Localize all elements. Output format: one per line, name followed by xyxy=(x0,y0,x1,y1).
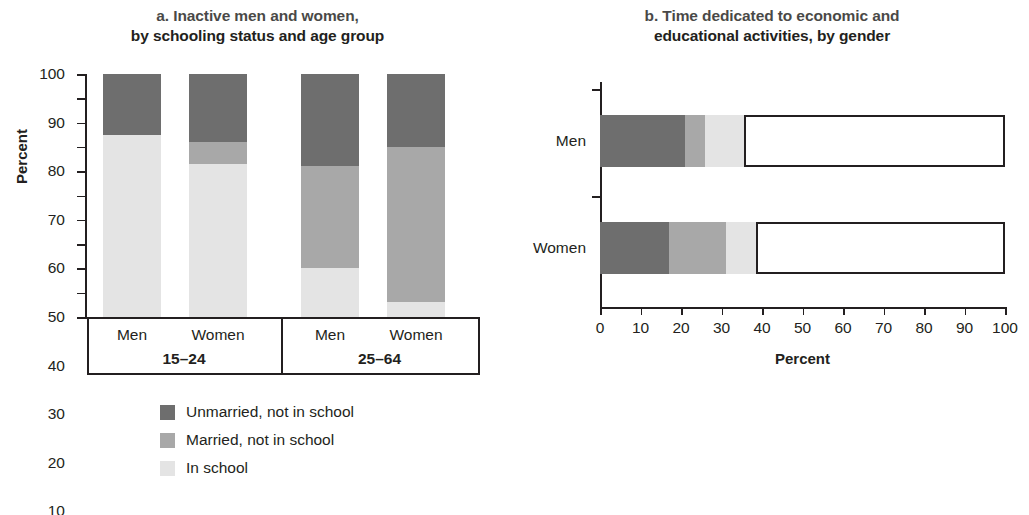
y-tick-mark: 10 xyxy=(77,293,85,295)
y-tick-mark: 50 xyxy=(77,196,85,198)
x-tick-mark xyxy=(884,307,886,315)
x-axis-category-label: Women xyxy=(371,326,461,344)
panel-a-title-line2: by schooling status and age group xyxy=(0,26,515,46)
y-tick-label: 60 xyxy=(48,261,65,277)
x-tick-mark xyxy=(924,307,926,315)
y-tick-mark: 0 xyxy=(77,317,85,319)
legend-swatch-icon xyxy=(160,405,175,420)
legend-swatch-icon xyxy=(160,433,175,448)
y-tick-mark: 100 xyxy=(77,74,85,76)
y-tick-label: 20 xyxy=(48,455,65,471)
column-segment xyxy=(103,135,161,317)
bar-segment xyxy=(705,115,743,167)
y-tick-mark xyxy=(592,196,600,198)
bar-category-label: Men xyxy=(556,132,586,150)
x-tick-label: 30 xyxy=(713,320,730,336)
x-tick-mark xyxy=(681,307,683,315)
x-tick-label: 70 xyxy=(875,320,892,336)
column-segment xyxy=(103,74,161,135)
column-segment xyxy=(387,74,445,147)
bar-segment xyxy=(744,115,1005,167)
x-tick-mark xyxy=(762,307,764,315)
bar-segment xyxy=(756,222,1005,274)
x-tick-label: 50 xyxy=(794,320,811,336)
x-tick-mark xyxy=(722,307,724,315)
panel-a-y-axis-label: Percent xyxy=(13,129,30,184)
column-segment xyxy=(387,147,445,303)
bar-segment xyxy=(685,115,705,167)
bar-category-label: Women xyxy=(533,239,586,257)
legend-item-label: Married, not in school xyxy=(186,432,334,448)
x-tick-label: 0 xyxy=(596,320,605,336)
x-axis-category-label: Men xyxy=(87,326,177,344)
panel-a-legend-item: In school xyxy=(160,454,354,482)
y-tick-label: 50 xyxy=(48,309,65,325)
panel-a-title-line1: a. Inactive men and women, xyxy=(0,6,515,26)
y-tick-mark: 70 xyxy=(77,147,85,149)
bar-segment xyxy=(600,222,669,274)
x-tick-mark xyxy=(965,307,967,315)
y-tick-mark xyxy=(592,89,600,91)
y-tick-label: 100 xyxy=(39,66,65,82)
x-tick-label: 60 xyxy=(834,320,851,336)
column-segment xyxy=(189,74,247,142)
bar-segment xyxy=(600,115,685,167)
y-tick-mark: 90 xyxy=(77,98,85,100)
y-tick-label: 10 xyxy=(48,504,65,515)
panel-inactive-men-women: a. Inactive men and women, by schooling … xyxy=(0,0,515,515)
y-tick-mark: 40 xyxy=(77,220,85,222)
stacked-bar-row: Women xyxy=(600,222,1005,274)
y-tick-label: 70 xyxy=(48,212,65,228)
x-axis-group-label: 25–64 xyxy=(281,350,478,368)
y-tick-label: 80 xyxy=(48,163,65,179)
x-tick-label: 80 xyxy=(915,320,932,336)
bar-segment xyxy=(669,222,726,274)
x-tick-mark xyxy=(843,307,845,315)
y-tick-mark: 20 xyxy=(77,268,85,270)
x-tick-mark xyxy=(1005,307,1007,315)
panel-a-legend-item: Unmarried, not in school xyxy=(160,398,354,426)
y-tick-mark: 80 xyxy=(77,123,85,125)
x-tick-mark xyxy=(803,307,805,315)
legend-swatch-icon xyxy=(160,461,175,476)
x-tick-label: 100 xyxy=(992,320,1018,336)
bar-segment xyxy=(726,222,756,274)
panel-b-title-line2: educational activities, by gender xyxy=(515,26,1029,46)
x-axis-group-label: 15–24 xyxy=(87,350,281,368)
panel-b-plot-area: 0102030405060708090100 MenWomen Percent xyxy=(600,82,1005,307)
legend-item-label: Unmarried, not in school xyxy=(186,404,354,420)
column-segment xyxy=(301,74,359,166)
column-segment xyxy=(189,142,247,164)
legend-item-label: In school xyxy=(186,460,248,476)
column-segment xyxy=(387,302,445,317)
x-axis-category-label: Men xyxy=(285,326,375,344)
x-tick-label: 20 xyxy=(672,320,689,336)
stacked-bar-row: Men xyxy=(600,115,1005,167)
panel-b-x-axis-label: Percent xyxy=(600,350,1005,367)
panel-a-legend-item: Married, not in school xyxy=(160,426,354,454)
panel-a-plot-area: Percent 0102030405060708090100 xyxy=(85,74,480,317)
column-segment xyxy=(301,268,359,317)
x-axis-category-label: Women xyxy=(173,326,263,344)
panel-a-title: a. Inactive men and women, by schooling … xyxy=(0,6,515,46)
column-segment xyxy=(301,166,359,268)
group-separator xyxy=(478,319,480,374)
y-tick-label: 90 xyxy=(48,115,65,131)
y-tick-mark: 60 xyxy=(77,171,85,173)
y-tick-label: 40 xyxy=(48,358,65,374)
panel-time-dedicated: b. Time dedicated to economic and educat… xyxy=(515,0,1029,515)
column-segment xyxy=(189,164,247,317)
panel-a-y-axis-line xyxy=(85,74,87,317)
y-tick-mark: 30 xyxy=(77,244,85,246)
x-tick-mark xyxy=(600,307,602,315)
group-axis-rule xyxy=(87,373,480,375)
x-tick-label: 90 xyxy=(956,320,973,336)
panel-b-title-line1: b. Time dedicated to economic and xyxy=(515,6,1029,26)
panel-b-title: b. Time dedicated to economic and educat… xyxy=(515,6,1029,46)
x-tick-mark xyxy=(641,307,643,315)
panel-a-legend: Unmarried, not in schoolMarried, not in … xyxy=(160,398,354,482)
y-tick-label: 30 xyxy=(48,406,65,422)
x-tick-label: 40 xyxy=(753,320,770,336)
x-tick-label: 10 xyxy=(632,320,649,336)
